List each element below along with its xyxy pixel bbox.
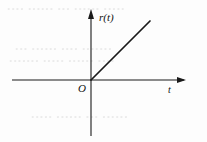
t-axis-label: t [168,84,171,95]
ray-r-of-t [91,21,150,80]
t-axis-arrowhead [177,77,186,83]
r-axis-label: r(t) [99,11,114,24]
r-axis-arrowhead [88,9,94,19]
origin-label: O [78,82,86,94]
graph-svg: r(t) t O [0,0,207,142]
figure-container: ••••• •••••• ••• •••••• •••• ••••••• •••… [0,0,207,142]
